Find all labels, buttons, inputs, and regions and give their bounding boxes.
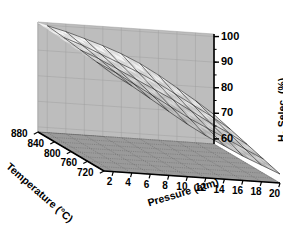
x-tick-20: 20 bbox=[269, 188, 280, 199]
y-tick-800: 800 bbox=[44, 148, 61, 159]
x-tick-8: 8 bbox=[162, 180, 168, 191]
x-tick-18: 18 bbox=[250, 186, 261, 197]
z-axis-title-subscript: 2 bbox=[281, 130, 283, 134]
z-axis-title: H2 Selec. (%) bbox=[276, 78, 283, 142]
y-tick-880: 880 bbox=[11, 128, 28, 139]
x-tick-4: 4 bbox=[125, 177, 131, 188]
z-tick-70: 70 bbox=[221, 106, 233, 118]
y-tick-760: 760 bbox=[61, 157, 78, 168]
x-tick-2: 2 bbox=[107, 176, 113, 187]
x-tick-6: 6 bbox=[144, 179, 150, 190]
x-tick-16: 16 bbox=[232, 185, 243, 196]
y-tick-720: 720 bbox=[77, 167, 94, 178]
z-axis-title-base: H bbox=[276, 134, 283, 142]
z-tick-60: 60 bbox=[221, 132, 233, 144]
z-tick-80: 80 bbox=[221, 81, 233, 93]
z-axis-title-rest: Selec. (%) bbox=[276, 78, 283, 131]
y-tick-840: 840 bbox=[28, 138, 45, 149]
z-tick-90: 90 bbox=[221, 55, 233, 67]
z-tick-100: 100 bbox=[221, 30, 239, 42]
figure-3d-surface-plot: 10090807060 2468101214161820 88084080076… bbox=[0, 0, 283, 225]
